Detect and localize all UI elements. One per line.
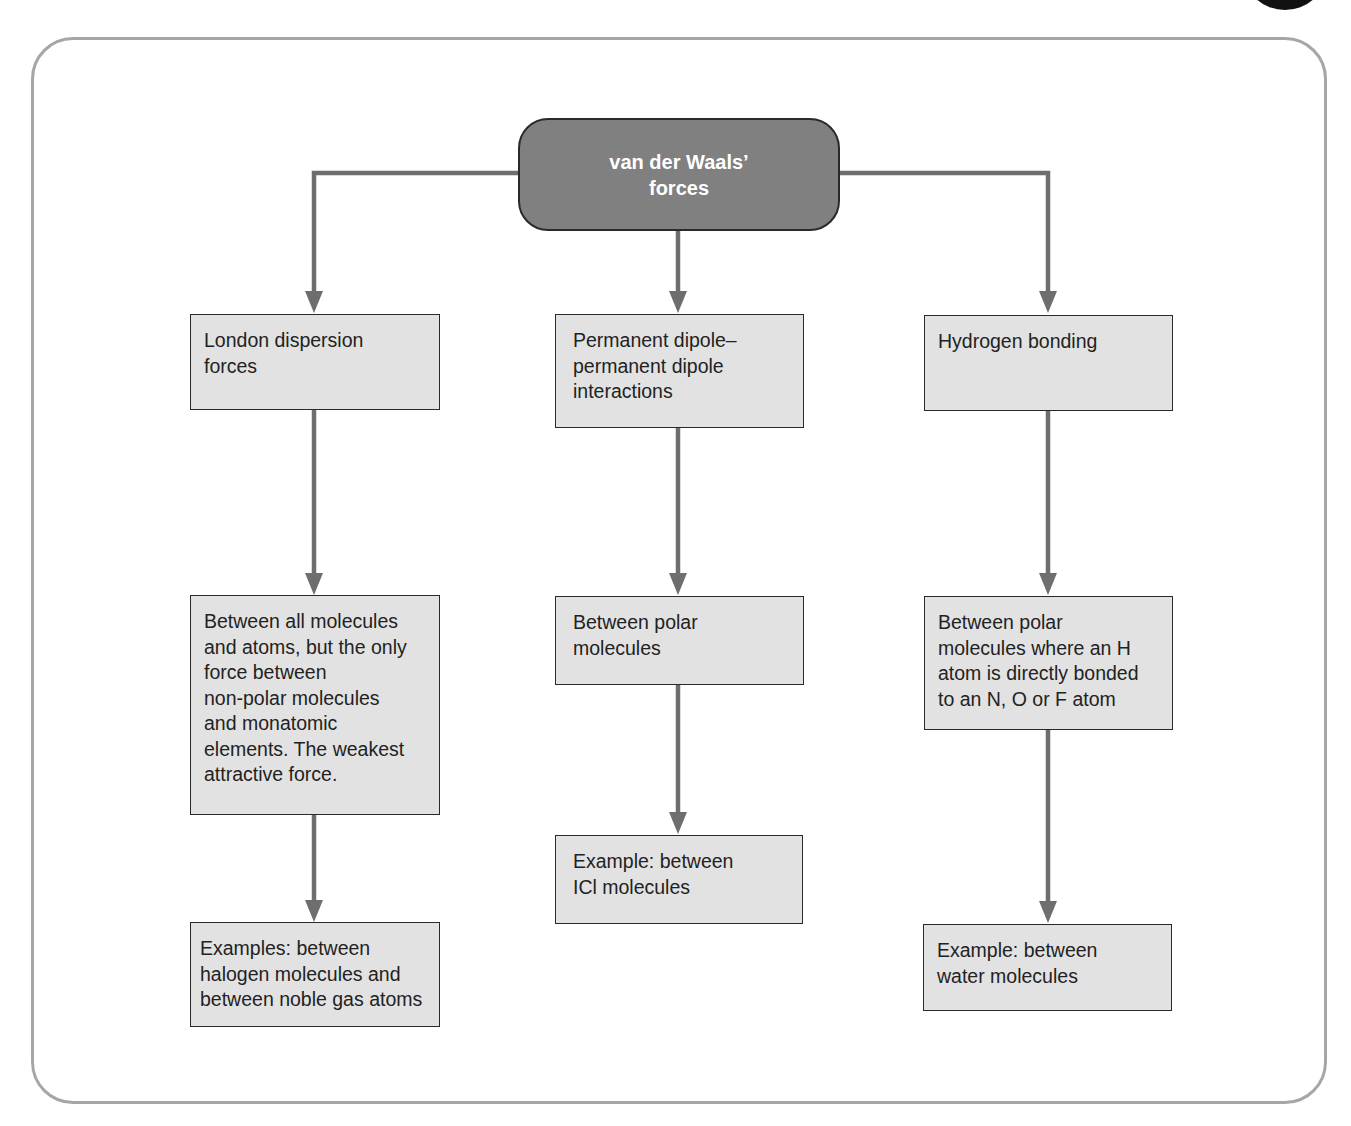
root-node-van-der-waals: van der Waals’ forces [518,118,840,231]
node-london-dispersion-title: London dispersion forces [190,314,440,410]
node-hydrogen-bonding-example: Example: between water molecules [923,924,1172,1011]
node-dipole-description: Between polar molecules [555,596,804,685]
node-london-dispersion-description: Between all molecules and atoms, but the… [190,595,440,815]
node-hydrogen-bonding-title: Hydrogen bonding [924,315,1173,411]
corner-badge [1245,0,1325,10]
node-dipole-example: Example: between ICl molecules [555,835,803,924]
node-dipole-title: Permanent dipole– permanent dipole inter… [555,314,804,428]
node-hydrogen-bonding-description: Between polar molecules where an H atom … [924,596,1173,730]
node-london-dispersion-example: Examples: between halogen molecules and … [190,922,440,1027]
